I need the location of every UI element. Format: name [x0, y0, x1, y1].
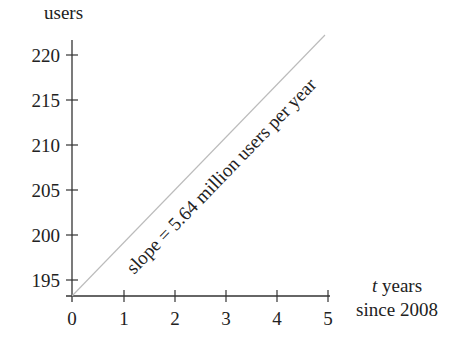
x-tick-label: 0 [67, 308, 77, 329]
x-axis-label-line1: t years [372, 275, 422, 296]
y-axis-label: users [44, 2, 83, 23]
x-tick-labels: 0 1 2 3 4 5 [67, 308, 333, 329]
x-axis-unit: years [377, 275, 422, 296]
y-tick-label: 195 [32, 270, 61, 291]
y-tick-label: 210 [32, 135, 61, 156]
data-line [72, 35, 325, 296]
x-tick-label: 3 [221, 308, 231, 329]
x-tick-label: 2 [170, 308, 180, 329]
x-tick-label: 5 [323, 308, 333, 329]
x-tick-label: 1 [119, 308, 129, 329]
y-tick-label: 205 [32, 180, 61, 201]
x-tick-label: 4 [272, 308, 282, 329]
y-tick-label: 215 [32, 90, 61, 111]
y-tick-labels: 220 215 210 205 200 195 [32, 45, 61, 291]
x-axis-label-line2: since 2008 [356, 299, 438, 320]
slope-annotation: slope = 5.64 million users per year [122, 73, 321, 277]
y-tick-label: 200 [32, 225, 61, 246]
y-tick-label: 220 [32, 45, 61, 66]
chart: 220 215 210 205 200 195 0 1 2 3 4 5 user… [0, 0, 460, 341]
